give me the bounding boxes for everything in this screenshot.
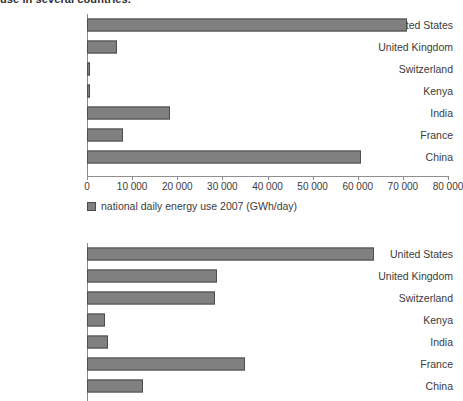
bar-row: India bbox=[0, 331, 453, 353]
bar-track bbox=[87, 151, 361, 164]
bar bbox=[87, 248, 374, 261]
bar-track bbox=[87, 19, 407, 32]
bar-track bbox=[87, 129, 123, 142]
axis-tick bbox=[222, 176, 223, 180]
axis-tick-label: 40 000 bbox=[252, 181, 283, 192]
axis-tick bbox=[358, 176, 359, 180]
value-axis-chart-1: 010 00020 00030 00040 00050 00060 00070 … bbox=[87, 176, 448, 177]
category-label: France bbox=[370, 358, 453, 370]
bar-track bbox=[87, 41, 117, 54]
axis-tick-label: 30 000 bbox=[207, 181, 238, 192]
bar bbox=[87, 107, 170, 120]
category-label: United Kingdom bbox=[370, 270, 453, 282]
bar-row: France bbox=[0, 124, 453, 146]
bar-row: France bbox=[0, 353, 453, 375]
bar-row: United Kingdom bbox=[0, 265, 453, 287]
bar-track bbox=[87, 63, 90, 76]
chart-legend: national daily energy use 2007 (GWh/day) bbox=[87, 200, 297, 212]
bar bbox=[87, 19, 407, 32]
legend-label: national daily energy use 2007 (GWh/day) bbox=[101, 200, 297, 212]
bar-row: Switzerland bbox=[0, 287, 453, 309]
category-label: China bbox=[370, 380, 453, 392]
axis-tick bbox=[313, 176, 314, 180]
bar bbox=[87, 292, 215, 305]
bar bbox=[87, 85, 90, 98]
bar-track bbox=[87, 107, 170, 120]
bar bbox=[87, 358, 245, 371]
axis-tick-label: 0 bbox=[84, 181, 90, 192]
bar-row: China bbox=[0, 375, 453, 397]
bar-chart-national-energy-use: United StatesUnited KingdomSwitzerlandKe… bbox=[0, 14, 453, 168]
bar-track bbox=[87, 270, 217, 283]
axis-tick-label: 50 000 bbox=[297, 181, 328, 192]
bar-track bbox=[87, 314, 105, 327]
category-label: Kenya bbox=[370, 314, 453, 326]
bar-rows-chart-2: United StatesUnited KingdomSwitzerlandKe… bbox=[0, 243, 453, 397]
bar bbox=[87, 336, 108, 349]
category-label: United Kingdom bbox=[370, 41, 453, 53]
bar-row: United Kingdom bbox=[0, 36, 453, 58]
bar-row: India bbox=[0, 102, 453, 124]
bar bbox=[87, 270, 217, 283]
bar bbox=[87, 151, 361, 164]
page-caption: use in several countries. bbox=[0, 0, 260, 6]
axis-tick bbox=[177, 176, 178, 180]
category-label: France bbox=[370, 129, 453, 141]
bar bbox=[87, 41, 117, 54]
bar-row: United States bbox=[0, 14, 453, 36]
category-label: United States bbox=[370, 248, 453, 260]
axis-tick bbox=[87, 176, 88, 180]
axis-tick bbox=[403, 176, 404, 180]
bar-track bbox=[87, 380, 143, 393]
bar-track bbox=[87, 248, 374, 261]
bar-track bbox=[87, 358, 245, 371]
axis-tick-label: 20 000 bbox=[162, 181, 193, 192]
axis-tick bbox=[448, 176, 449, 180]
category-label: China bbox=[370, 151, 453, 163]
bar-track bbox=[87, 85, 90, 98]
axis-tick bbox=[132, 176, 133, 180]
bar bbox=[87, 380, 143, 393]
bar-track bbox=[87, 336, 108, 349]
bar-row: United States bbox=[0, 243, 453, 265]
category-label: Kenya bbox=[370, 85, 453, 97]
bar-chart-secondary: United StatesUnited KingdomSwitzerlandKe… bbox=[0, 243, 453, 397]
bar-row: China bbox=[0, 146, 453, 168]
category-label: India bbox=[370, 336, 453, 348]
bar-rows-chart-1: United StatesUnited KingdomSwitzerlandKe… bbox=[0, 14, 453, 168]
bar-row: Kenya bbox=[0, 309, 453, 331]
category-label: Switzerland bbox=[370, 292, 453, 304]
category-label: Switzerland bbox=[370, 63, 453, 75]
bar bbox=[87, 129, 123, 142]
bar bbox=[87, 314, 105, 327]
axis-tick-label: 10 000 bbox=[117, 181, 148, 192]
legend-swatch-icon bbox=[87, 202, 96, 211]
bar-row: Switzerland bbox=[0, 58, 453, 80]
axis-tick-label: 70 000 bbox=[388, 181, 419, 192]
category-label: India bbox=[370, 107, 453, 119]
axis-tick-label: 60 000 bbox=[342, 181, 373, 192]
bar bbox=[87, 63, 90, 76]
bar-row: Kenya bbox=[0, 80, 453, 102]
bar-track bbox=[87, 292, 215, 305]
axis-tick bbox=[268, 176, 269, 180]
axis-tick-label: 80 000 bbox=[433, 181, 463, 192]
